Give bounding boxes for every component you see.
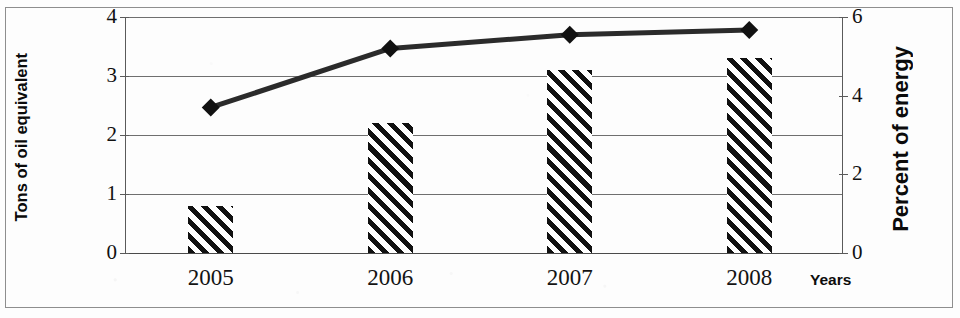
- left-axis-tick-labels: 01234: [95, 17, 117, 253]
- left-axis-tick-label: 0: [107, 242, 118, 263]
- right-axis-title: Percent of energy: [884, 8, 918, 270]
- right-axis-tick-label: 4: [852, 85, 863, 106]
- right-axis-tick-label: 6: [852, 6, 863, 27]
- left-axis-tick-label: 2: [107, 124, 118, 145]
- x-axis-category-label: 2008: [726, 266, 772, 289]
- trend-line: [211, 30, 750, 107]
- x-axis-category-label: 2007: [547, 266, 593, 289]
- left-axis-title-label: Tons of oil equivalent: [13, 53, 30, 221]
- right-tickmark: [839, 253, 848, 254]
- right-axis-tick-label: 2: [852, 163, 863, 184]
- x-axis-title: Years: [810, 271, 851, 289]
- left-axis-tick-label: 3: [107, 65, 118, 86]
- right-axis-tick-labels: 0246: [852, 17, 876, 253]
- gridline: [125, 253, 843, 254]
- line-marker-diamond: [381, 39, 399, 57]
- left-tickmark: [120, 253, 129, 254]
- right-axis-title-label: Percent of energy: [890, 46, 912, 232]
- x-axis-category-label: 2006: [367, 266, 413, 289]
- line-marker-diamond: [561, 26, 579, 44]
- x-axis-category-labels: 2005200620072008: [125, 266, 843, 296]
- left-axis-tick-label: 4: [107, 6, 118, 27]
- line-marker-diamond: [202, 98, 220, 116]
- left-axis-tick-label: 1: [107, 183, 118, 204]
- plot-area: [125, 17, 843, 253]
- line-marker-diamond: [740, 21, 758, 39]
- chart-figure: Tons of oil equivalent Percent of energy…: [0, 0, 960, 318]
- line-series: [125, 17, 843, 253]
- left-axis-title: Tons of oil equivalent: [8, 14, 34, 260]
- right-axis-tick-label: 0: [852, 242, 863, 263]
- x-axis-category-label: 2005: [188, 266, 234, 289]
